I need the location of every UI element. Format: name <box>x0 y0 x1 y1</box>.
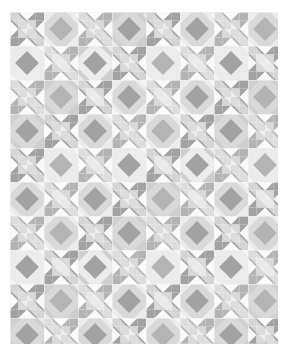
quilt-pattern <box>10 12 278 344</box>
quilt-canvas <box>10 12 278 344</box>
